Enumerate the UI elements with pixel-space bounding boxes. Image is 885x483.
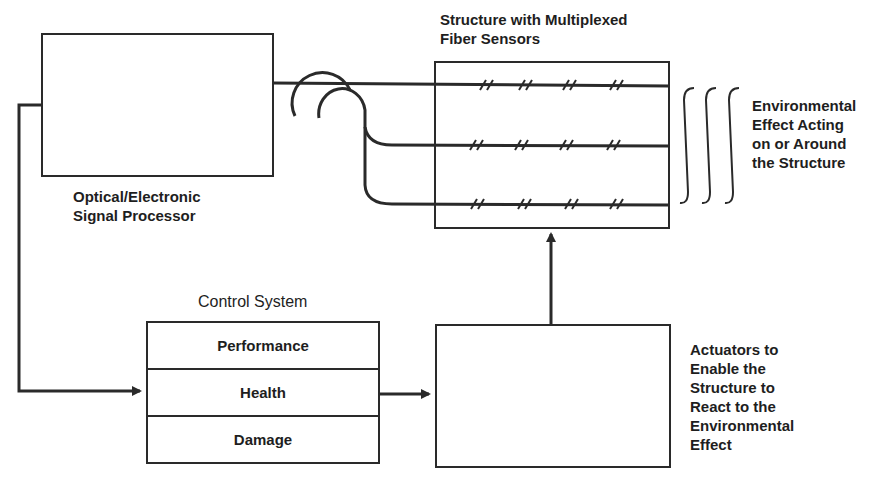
actuators-label-line: Actuators to xyxy=(690,340,794,359)
actuators-label-line: Structure to xyxy=(690,378,794,397)
actuators-label: Actuators to Enable the Structure to Rea… xyxy=(690,340,794,454)
structure-label-line: Fiber Sensors xyxy=(440,29,628,48)
structure-box xyxy=(434,61,670,229)
signal-processor-label-line: Optical/Electronic xyxy=(73,187,201,206)
environment-label-line: on or Around xyxy=(752,134,856,153)
environment-label-line: the Structure xyxy=(752,153,856,172)
actuators-box xyxy=(435,324,671,468)
signal-processor-label-line: Signal Processor xyxy=(73,206,201,225)
structure-label-line: Structure with Multiplexed xyxy=(440,10,628,29)
structure-label: Structure with Multiplexed Fiber Sensors xyxy=(440,10,628,48)
control-divider xyxy=(148,368,378,370)
control-row-damage: Damage xyxy=(148,431,378,448)
signal-processor-box xyxy=(41,33,274,177)
environment-label-line: Environmental xyxy=(752,96,856,115)
control-system-title: Control System xyxy=(198,292,307,311)
actuators-label-line: Environmental xyxy=(690,416,794,435)
signal-processor-label: Optical/Electronic Signal Processor xyxy=(73,187,201,225)
actuators-label-line: React to the xyxy=(690,397,794,416)
control-divider xyxy=(148,415,378,417)
environmental-wave-icon xyxy=(680,88,739,203)
environment-label: Environmental Effect Acting on or Around… xyxy=(752,96,856,172)
actuators-label-line: Effect xyxy=(690,435,794,454)
control-row-performance: Performance xyxy=(148,337,378,354)
control-row-health: Health xyxy=(148,384,378,401)
environment-label-line: Effect Acting xyxy=(752,115,856,134)
control-system-box: Performance Health Damage xyxy=(146,321,380,464)
actuators-label-line: Enable the xyxy=(690,359,794,378)
